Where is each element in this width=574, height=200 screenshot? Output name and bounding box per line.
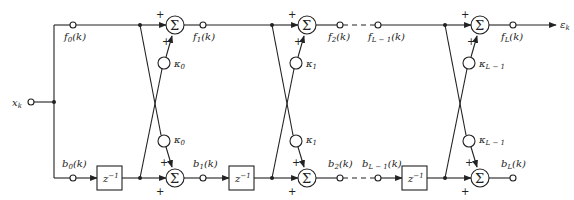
stageLm1-kappa-top-label: κL − 1 <box>478 58 505 71</box>
stage0-sum-top-symbol: Σ <box>170 18 179 33</box>
bLm1-node <box>375 175 381 181</box>
stage1-kappa-bottom <box>290 135 302 147</box>
bL-label: bL(k) <box>501 158 526 171</box>
plus-sign: + <box>288 186 296 197</box>
fLm1-label: fL − 1(k) <box>367 31 405 44</box>
stageLm1-kappa-bottom <box>463 135 475 147</box>
f1-node <box>200 22 206 28</box>
stageLm1-cross-down <box>445 25 466 135</box>
plus-sign: + <box>294 36 302 47</box>
stage1-sum-bottom-symbol: Σ <box>302 171 311 186</box>
f2-node <box>337 22 343 28</box>
f0-label: f0(k) <box>63 31 86 44</box>
stage1-kappa-bottom-label: κ1 <box>305 134 317 147</box>
stage1-sum-top-symbol: Σ <box>302 18 311 33</box>
plus-sign: + <box>461 186 469 197</box>
f1-label: f1(k) <box>192 31 215 44</box>
input-label: xk <box>12 97 22 110</box>
plus-sign: + <box>461 9 469 20</box>
stageLm1-sum-top-symbol: Σ <box>475 18 484 33</box>
b0-label: b0(k) <box>62 158 87 171</box>
plus-sign: + <box>162 36 170 47</box>
stageLm1-kappa-bottom-label: κL − 1 <box>478 134 505 147</box>
plus-sign: + <box>156 9 164 20</box>
fLm1-node <box>375 22 381 28</box>
stage1-kappa-top <box>290 57 302 69</box>
bL-node <box>510 175 516 181</box>
stage1-kappa-top-label: κ1 <box>305 58 317 71</box>
b2-node <box>337 175 343 181</box>
lattice-filter-diagram: xk f0(k) b0(k) z−1 κ0 κ0 Σ + + Σ + + f1(… <box>0 0 574 200</box>
f0-node <box>70 22 76 28</box>
stage0-kappa-bottom-label: κ0 <box>173 134 186 147</box>
stageLm1-sum-bottom-symbol: Σ <box>475 171 484 186</box>
plus-sign: + <box>156 186 164 197</box>
plus-sign: + <box>467 36 475 47</box>
stage0-kappa-top <box>158 57 170 69</box>
f2-label: f2(k) <box>327 31 350 44</box>
output-label: εk <box>560 19 570 32</box>
stage0-sum-bottom-symbol: Σ <box>170 171 179 186</box>
plus-sign: + <box>160 157 168 168</box>
plus-sign: + <box>465 157 473 168</box>
stage1-cross-down <box>272 25 293 135</box>
b2-label: b2(k) <box>328 158 353 171</box>
fL-label: fL(k) <box>500 31 523 44</box>
b0-node <box>70 175 76 181</box>
stage0-kappa-bottom <box>158 135 170 147</box>
fL-node <box>510 22 516 28</box>
bLm1-label: bL − 1(k) <box>362 158 402 171</box>
stage0-kappa-top-label: κ0 <box>173 58 186 71</box>
stageLm1-kappa-top <box>463 57 475 69</box>
plus-sign: + <box>292 157 300 168</box>
stage0-cross-down <box>140 25 161 135</box>
plus-sign: + <box>288 9 296 20</box>
b1-label: b1(k) <box>193 158 218 171</box>
b1-node <box>200 175 206 181</box>
input-node <box>28 99 34 105</box>
